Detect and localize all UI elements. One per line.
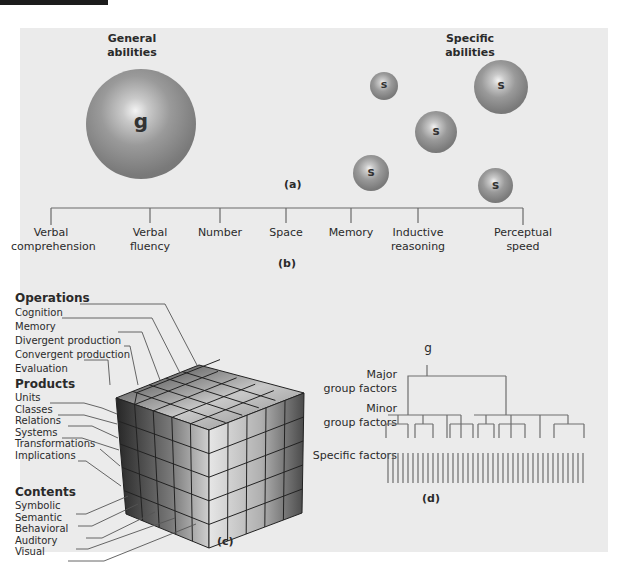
caption-d: (d)	[422, 492, 440, 505]
figure-panel: General abilities g Specific abilities s…	[20, 28, 608, 552]
specific-factor-lines	[388, 453, 583, 483]
header-bar	[0, 0, 108, 5]
hierarchical-dendrogram	[20, 28, 608, 552]
